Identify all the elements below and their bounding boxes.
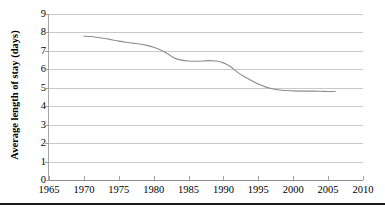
x-tick-mark-1970	[84, 176, 85, 180]
x-tick-mark-2005	[328, 176, 329, 180]
y-tick-mark-3	[45, 125, 49, 126]
x-tick-mark-1965	[49, 176, 50, 180]
y-tick-mark-5	[45, 88, 49, 89]
x-tick-mark-1995	[258, 176, 259, 180]
y-tick-mark-1	[45, 162, 49, 163]
y-tick-label-2: 2	[32, 138, 46, 149]
y-axis-title-container: Average length of stay (days)	[0, 0, 28, 190]
y-tick-label-4: 4	[32, 101, 46, 112]
y-tick-mark-7	[45, 51, 49, 52]
x-tick-mark-1990	[223, 176, 224, 180]
x-tick-mark-1975	[119, 176, 120, 180]
y-tick-mark-6	[45, 69, 49, 70]
y-tick-mark-9	[45, 14, 49, 15]
y-tick-label-9: 9	[32, 9, 46, 20]
x-tick-mark-1980	[154, 176, 155, 180]
y-tick-label-1: 1	[32, 157, 46, 168]
y-tick-label-5: 5	[32, 83, 46, 94]
chart-figure: Average length of stay (days) 9876543210…	[0, 0, 385, 215]
y-axis-tick-labels: 9876543210	[30, 0, 46, 215]
y-tick-label-6: 6	[32, 64, 46, 75]
series-line-chart	[49, 14, 363, 180]
y-tick-mark-8	[45, 32, 49, 33]
x-axis-line	[49, 180, 363, 181]
y-axis-title: Average length of stay (days)	[9, 30, 20, 159]
x-tick-mark-2010	[363, 176, 364, 180]
y-tick-label-3: 3	[32, 120, 46, 131]
series-line-path	[84, 36, 335, 91]
x-tick-label-2010: 2010	[343, 184, 383, 195]
y-tick-label-8: 8	[32, 27, 46, 38]
y-tick-mark-2	[45, 143, 49, 144]
y-tick-mark-4	[45, 106, 49, 107]
y-tick-label-7: 7	[32, 46, 46, 57]
bottom-divider	[0, 203, 385, 205]
y-tick-mark-0	[45, 180, 49, 181]
x-tick-mark-1985	[189, 176, 190, 180]
x-tick-mark-2000	[293, 176, 294, 180]
